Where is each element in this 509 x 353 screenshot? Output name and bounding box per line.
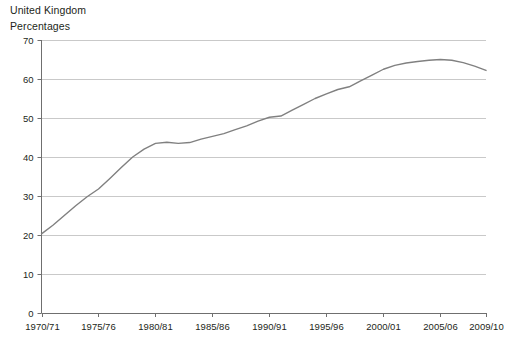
x-axis-tick-label: 1990/91 bbox=[252, 321, 286, 332]
x-axis-tick-label: 1980/81 bbox=[138, 321, 172, 332]
x-axis-tick-label: 2009/10 bbox=[469, 321, 503, 332]
x-axis-tick-label: 1985/86 bbox=[195, 321, 229, 332]
data-series-line bbox=[42, 60, 487, 234]
line-chart-plot: 010203040506070 1970/711975/761980/81198… bbox=[0, 0, 509, 353]
x-axis-tick-label: 2005/06 bbox=[423, 321, 457, 332]
y-axis-tick-label: 60 bbox=[23, 74, 34, 85]
x-axis-tick-label: 1975/76 bbox=[81, 321, 115, 332]
x-axis-tick-label: 1995/96 bbox=[309, 321, 343, 332]
chart-container: United Kingdom Percentages 0102030405060… bbox=[0, 0, 509, 353]
y-axis-tick-label: 40 bbox=[23, 152, 34, 163]
y-axis-labels: 010203040506070 bbox=[23, 35, 34, 319]
y-axis-tick-label: 20 bbox=[23, 230, 34, 241]
gridlines bbox=[42, 41, 487, 314]
y-axis-tick-label: 50 bbox=[23, 113, 34, 124]
x-axis-tick-label: 2000/01 bbox=[366, 321, 400, 332]
y-axis-tick-label: 70 bbox=[23, 35, 34, 46]
x-axis-labels: 1970/711975/761980/811985/861990/911995/… bbox=[25, 321, 503, 332]
y-axis-tick-label: 30 bbox=[23, 191, 34, 202]
y-axis-tick-label: 10 bbox=[23, 269, 34, 280]
y-axis-ticks bbox=[38, 41, 42, 314]
x-axis-tick-label: 1970/71 bbox=[25, 321, 59, 332]
y-axis-tick-label: 0 bbox=[28, 308, 33, 319]
